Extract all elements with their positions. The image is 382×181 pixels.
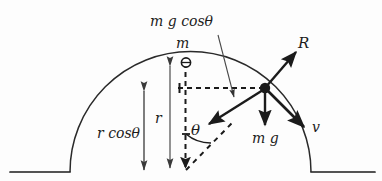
label-velocity: v	[312, 120, 320, 134]
label-weight: m g	[252, 131, 279, 145]
dome-arc	[70, 52, 311, 173]
physics-diagram-canvas: m g cosθ m R v m g θ r r cosθ	[0, 0, 382, 181]
label-angle: θ	[191, 123, 200, 138]
label-radius: r	[155, 111, 162, 125]
normal-force-vector	[265, 52, 296, 88]
velocity-vector	[265, 88, 304, 127]
label-weight-component: m g cosθ	[150, 14, 213, 28]
label-mass: m	[176, 36, 189, 50]
label-height: r cosθ	[97, 126, 140, 140]
label-normal-force: R	[298, 36, 309, 51]
weight-component-vector	[209, 90, 263, 124]
